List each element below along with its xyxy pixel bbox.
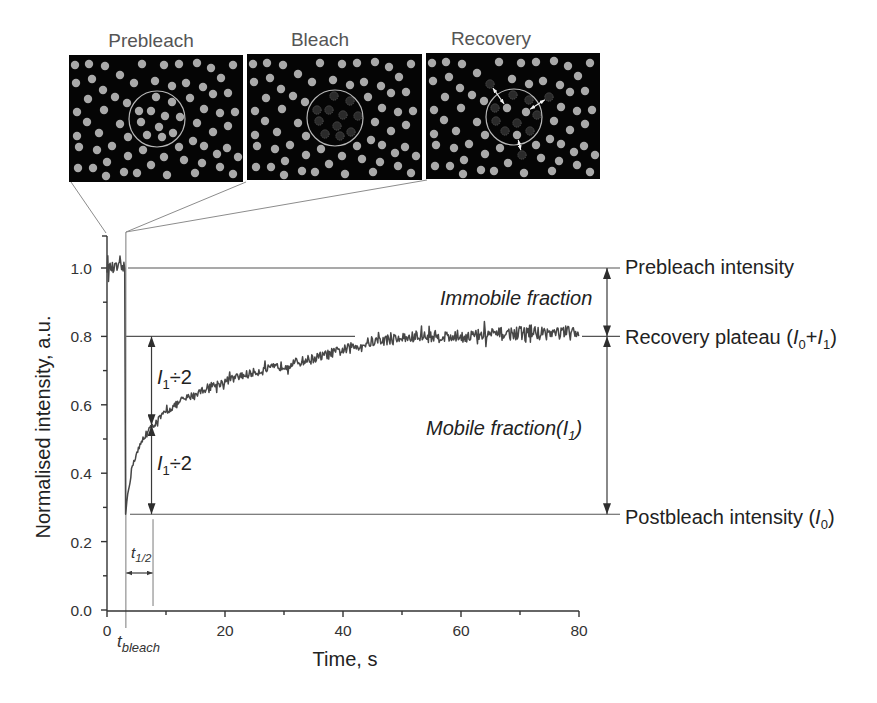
- y-axis-title: Normalised intensity, a.u.: [32, 315, 54, 538]
- fluorescent-particle: [231, 108, 239, 116]
- bleached-particle: [526, 127, 534, 135]
- fluorescent-particle: [180, 156, 188, 164]
- fluorescent-particle: [289, 92, 297, 100]
- frap-figure: Prebleach Bleach Recovery 0.00.20.40.60.…: [0, 0, 877, 703]
- fluorescent-particle: [266, 74, 274, 82]
- bleached-particle: [325, 106, 333, 114]
- fluorescent-particle: [557, 103, 565, 111]
- fluorescent-particle: [161, 112, 169, 120]
- fluorescent-particle: [143, 131, 151, 139]
- label-part: ÷2: [170, 366, 192, 388]
- y-tick-label: 1.0: [70, 260, 92, 277]
- label-part: ÷2: [170, 452, 192, 474]
- fluorescent-particle: [564, 62, 572, 70]
- fluorescent-particle: [431, 162, 439, 170]
- fluorescent-particle: [316, 59, 324, 67]
- fluorescent-particle: [311, 168, 319, 176]
- fluorescent-particle: [124, 152, 132, 160]
- fluorescent-particle: [376, 158, 384, 166]
- recovery-connector-line: [126, 180, 427, 232]
- y-tick-label: 0.0: [70, 602, 92, 619]
- fluorescent-particle: [186, 94, 194, 102]
- fluorescent-particle: [302, 151, 310, 159]
- prebleach-intensity-label: Prebleach intensity: [625, 256, 794, 278]
- fluorescent-particle: [85, 60, 93, 68]
- fluorescent-particle: [401, 143, 409, 151]
- label-subscript: 1/2: [135, 552, 152, 564]
- bleached-particle: [518, 151, 526, 159]
- fluorescent-particle: [456, 84, 464, 92]
- fluorescent-particle: [160, 153, 168, 161]
- label-part: ): [830, 326, 837, 348]
- fluorescent-particle: [452, 127, 460, 135]
- fluorescent-particle: [566, 88, 574, 96]
- fluorescent-particle: [432, 141, 440, 149]
- fluorescent-particle: [556, 81, 564, 89]
- fluorescent-particle: [102, 172, 110, 180]
- fluorescent-particle: [378, 104, 386, 112]
- label-part: Recovery plateau (: [625, 326, 793, 348]
- fluorescent-particle: [532, 141, 540, 149]
- fluorescent-particle: [249, 60, 257, 68]
- fluorescent-particle: [430, 130, 438, 138]
- fluorescent-particle: [103, 158, 111, 166]
- fluorescent-particle: [251, 107, 259, 115]
- mobile-fraction-label: Mobile fraction(I1): [426, 417, 582, 443]
- fluorescent-particle: [135, 107, 143, 115]
- fluorescent-particle: [378, 141, 386, 149]
- fluorescent-particle: [101, 62, 109, 70]
- fluorescent-particle: [329, 76, 337, 84]
- fluorescent-particle: [325, 160, 333, 168]
- fluorescent-particle: [160, 61, 168, 69]
- fluorescent-particle: [216, 109, 224, 117]
- bleached-particle: [315, 117, 323, 125]
- fluorescent-particle: [138, 60, 146, 68]
- fluorescent-particle: [147, 107, 155, 115]
- x-tick-label: 0: [103, 622, 112, 639]
- x-tick-label: 80: [570, 622, 588, 639]
- fluorescent-particle: [369, 168, 377, 176]
- fluorescent-particle: [302, 132, 310, 140]
- bleached-particle: [491, 104, 499, 112]
- bleached-particle: [330, 92, 338, 100]
- x-axis-title: Time, s: [313, 648, 378, 670]
- fluorescent-particle: [286, 141, 294, 149]
- fluorescent-particle: [496, 144, 504, 152]
- fluorescent-particle: [279, 61, 287, 69]
- bleached-particle: [486, 80, 494, 88]
- x-tick-label: 60: [452, 622, 470, 639]
- half-mobile-lower-label: I1÷2: [157, 452, 192, 478]
- fluorescent-particle: [89, 164, 97, 172]
- fluorescent-particle: [409, 107, 417, 115]
- fluorescent-particle: [198, 159, 206, 167]
- panel-connectors: [71, 180, 427, 233]
- fluorescent-particle: [130, 79, 138, 87]
- fluorescent-particle: [429, 77, 437, 85]
- bleached-particle: [321, 130, 329, 138]
- bleached-particle: [533, 111, 541, 119]
- fluorescent-particle: [557, 140, 565, 148]
- label-subscript: 1: [163, 377, 170, 392]
- fluorescent-particle: [229, 61, 237, 69]
- fluorescent-particle: [548, 167, 556, 175]
- bleached-particle: [336, 132, 344, 140]
- fluorescent-particle: [395, 73, 403, 81]
- fluorescent-particle: [88, 75, 96, 83]
- fluorescent-particle: [116, 120, 124, 128]
- bleached-particle: [509, 91, 517, 99]
- fluorescent-particle: [108, 142, 116, 150]
- fluorescent-particle: [223, 144, 231, 152]
- panel-recovery: [426, 53, 600, 179]
- fluorescent-particle: [566, 126, 574, 134]
- fluorescent-particle: [371, 118, 379, 126]
- label-part: ): [828, 506, 835, 528]
- bleached-particle: [525, 96, 533, 104]
- fluorescent-particle: [468, 91, 476, 99]
- fluorescent-particle: [224, 89, 232, 97]
- fluorescent-particle: [520, 169, 528, 177]
- fluorescent-particle: [477, 166, 485, 174]
- t-bleach-label: tbleach: [117, 632, 160, 655]
- fluorescent-particle: [481, 131, 489, 139]
- fluorescent-particle: [73, 132, 81, 140]
- fluorescent-particle: [147, 161, 155, 169]
